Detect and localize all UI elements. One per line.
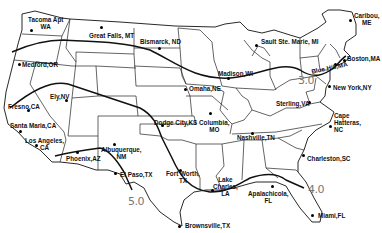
station-label-albuquerque: Albuquerque, NM — [101, 146, 142, 160]
station-label-omaha: Omaha,NE — [189, 85, 221, 92]
isoline-label-3-0: 3.0 — [298, 74, 314, 87]
us-isoline-map: 3.0 4.0 5.0 Tacoma Apt WA Great Falls, M… — [0, 0, 382, 233]
station-dot-charleston — [302, 154, 305, 157]
station-dot-cape-hatteras — [329, 125, 332, 128]
station-label-miami: Miami,FL — [318, 212, 345, 219]
station-label-nashville: Nashville,TN — [237, 134, 275, 141]
station-label-great-falls: Great Falls, MT — [89, 32, 134, 39]
station-label-dodge-city: Dodge City,KS — [154, 119, 197, 126]
station-dot-madison — [227, 77, 230, 80]
station-dot-phoenix — [76, 151, 79, 154]
station-label-santa-maria: Santa Maria,CA — [10, 122, 56, 129]
station-dot-brownsville — [178, 225, 181, 228]
station-dot-omaha — [184, 88, 187, 91]
station-dot-caribou — [349, 19, 352, 22]
station-label-sault-ste-marie: Sault Ste. Marie, MI — [261, 38, 318, 45]
station-dot-santa-maria — [19, 130, 22, 133]
station-label-bismarck: Bismarck, ND — [140, 38, 181, 45]
isoline-label-5-0: 5.0 — [128, 195, 144, 208]
station-label-tacoma: Tacoma Apt WA — [28, 16, 63, 30]
station-label-medford: Medford,OR — [22, 61, 58, 68]
station-dot-new-york — [328, 85, 331, 88]
station-dot-apalachicola — [271, 185, 274, 188]
station-label-charleston: Charleston,SC — [307, 155, 350, 162]
station-dot-medford — [18, 63, 21, 66]
station-label-cape-hatteras: Cape Hatteras, NC — [334, 112, 361, 133]
station-dot-columbia — [209, 112, 212, 115]
station-label-columbia: Columbia, MO — [199, 119, 229, 133]
station-label-fresno: Fresno,CA — [8, 103, 40, 110]
station-label-phoenix: Phoenix,AZ — [66, 155, 101, 162]
station-dot-el-paso — [114, 172, 117, 175]
map-base-svg — [0, 0, 382, 233]
station-label-los-angeles: Los Angeles, CA — [25, 137, 64, 151]
station-label-caribou: Caribou, ME — [354, 12, 380, 26]
station-label-madison: Madison,WI — [218, 70, 253, 77]
isoline-3-0 — [12, 40, 346, 78]
station-label-fort-worth: Fort Worth, TX — [166, 170, 200, 184]
station-label-ely: Ely,NV — [50, 93, 69, 100]
station-label-new-york: New York,NY — [333, 84, 372, 91]
station-label-apalachicola: Apalachicola, FL — [248, 190, 289, 204]
station-label-boston: Boston,MA — [347, 55, 380, 62]
station-label-sterling: Sterling,VA — [276, 100, 309, 107]
station-dot-bismarck — [158, 47, 161, 50]
isoline-label-4-0: 4.0 — [308, 183, 324, 196]
station-label-el-paso: El Paso,TX — [120, 171, 153, 178]
station-dot-miami — [311, 214, 314, 217]
station-label-lake-charles: Lake Charles, LA — [213, 176, 238, 197]
station-label-brownsville: Brownsville,TX — [185, 222, 230, 229]
station-dot-great-falls — [100, 26, 103, 29]
station-dot-sault-ste-marie — [255, 44, 258, 47]
